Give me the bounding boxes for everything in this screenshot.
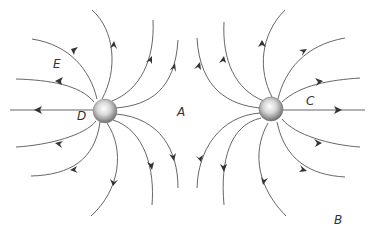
label-d: D xyxy=(77,110,86,122)
label-c: C xyxy=(306,95,314,107)
right-charge xyxy=(259,97,283,121)
label-b: B xyxy=(334,214,342,226)
label-a: A xyxy=(177,106,185,118)
field-line-diagram xyxy=(0,0,372,237)
left-charge xyxy=(93,99,117,123)
label-e: E xyxy=(53,58,61,70)
